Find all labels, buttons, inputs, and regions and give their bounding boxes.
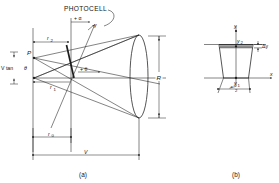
v-tan-theta-theta-symbol: θ	[24, 65, 27, 71]
panel-b: y x y 2 y 1 Δy x	[204, 23, 273, 179]
R-label: R	[157, 74, 162, 81]
caption-a: (a)	[79, 171, 87, 179]
r1-label: r	[50, 84, 52, 90]
cone-base-ellipse	[130, 35, 148, 118]
point-p-marker	[33, 57, 35, 59]
panel-b-x-axis-label: x	[269, 71, 273, 77]
R-dimension: R	[148, 36, 166, 118]
light-cone-rays	[34, 35, 160, 118]
panel-b-y-axis-label: y	[233, 23, 237, 29]
r1-dimension: r 1	[34, 82, 70, 92]
y1-subscript: 1	[237, 83, 240, 88]
width-denominator: 2	[235, 88, 238, 93]
r1-subscript: 1	[53, 87, 56, 92]
delta-y-label: Δy	[262, 43, 268, 49]
point-p-label: P	[27, 49, 32, 56]
y1-label: y	[233, 80, 237, 86]
r0-dimension: r 0	[33, 131, 71, 139]
caption-b: (b)	[232, 171, 240, 179]
alpha-label: + α	[74, 15, 81, 21]
theta-center-label: + θ	[80, 66, 87, 72]
y-axis-arrow-dot	[235, 30, 237, 32]
delta-y-dimension: Δy	[254, 41, 268, 52]
v-tan-theta-dimension: V tan θ	[1, 52, 27, 84]
photocell-ray	[51, 24, 95, 128]
y2-point-marker	[235, 45, 237, 47]
gamma-label: γ	[94, 22, 97, 28]
V-label: V	[84, 149, 88, 155]
panel-a: PHOTOCELL + α γ + θ P V tan θ r 2	[1, 5, 166, 179]
V-dimension: V	[33, 149, 139, 156]
photocell-leader	[104, 10, 114, 26]
figure-svg: PHOTOCELL + α γ + θ P V tan θ r 2	[0, 0, 279, 183]
v-tan-theta-label: V tan	[1, 65, 13, 71]
r2-dimension: r 2	[34, 35, 68, 43]
figure-container: PHOTOCELL + α γ + θ P V tan θ r 2	[0, 0, 279, 183]
photocell-label: PHOTOCELL	[64, 5, 107, 12]
y1-point-marker	[235, 77, 237, 79]
r0-label: r	[48, 131, 50, 137]
r2-label: r	[47, 35, 49, 41]
y2-label: y	[236, 38, 240, 44]
point-p2-marker	[33, 77, 35, 79]
